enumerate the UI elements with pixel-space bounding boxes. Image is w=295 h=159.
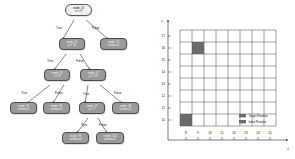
x-tick-label: 15 [268,131,272,135]
x-tick-labels: 8 9 10 11 12 13 14 15 [185,131,272,135]
x-tick-label: 12 [232,131,236,135]
y-tick-marks [168,36,171,120]
edge-label-n7-n10: False [99,123,107,127]
tree-node-n8[interactable]: node #8 action=2 [112,102,139,114]
tree-node-detail: x < 8 [54,75,61,78]
edge-label-n3-n5: True [21,91,27,95]
y-tick-label: 11 [162,106,166,110]
tree-node-n6[interactable]: node #6 action=2 [43,102,70,114]
tree-node-n10[interactable]: node #10 action=2 [96,132,124,144]
x-tick-marks [186,137,270,140]
y-tick-label: 13 [161,82,165,86]
tree-node-detail: action=1 [18,108,30,111]
x-tick-label: 9 [197,131,199,135]
edge-label-n0-n1: True [56,26,62,30]
x-tick-label: 10 [208,131,212,135]
tree-node-n5[interactable]: node #5 action=1 [10,102,37,114]
decision-tree-panel: node #0 x < 9 node #1 y < 11 node #2 act… [0,0,155,159]
tree-node-detail: action=2 [108,44,120,47]
legend-label-initial: Initial Position [249,120,267,124]
tree-node-n3[interactable]: node #3 x < 8 [44,69,70,81]
legend-swatch-initial [239,120,246,123]
y-tick-label: 15 [161,58,165,62]
edge-label-n4-n7: True [83,92,89,96]
tree-node-detail: action=2 [120,108,132,111]
edge-label-n0-n2: False [92,26,100,30]
y-axis-label: y [160,19,163,23]
grid-chart-svg: 8 9 10 11 12 13 14 15 10 11 12 13 14 15 … [155,0,295,159]
tree-node-detail: action=2 [51,108,63,111]
tree-node-detail: y < 13 [89,75,97,78]
edge-label-n1-n4: False [76,59,84,63]
tree-node-n4[interactable]: node #4 y < 13 [80,69,106,81]
y-tick-label: 12 [161,94,165,98]
y-tick-labels: 10 11 12 13 14 15 16 17 [161,34,165,122]
grid-chart-panel: 8 9 10 11 12 13 14 15 10 11 12 13 14 15 … [155,0,295,159]
tree-node-n9[interactable]: node #9 action=0 [62,132,89,144]
y-tick-label: 17 [161,34,165,38]
y-tick-label: 16 [161,46,165,50]
y-tick-label: 14 [161,70,165,74]
cell-initial-position [180,114,192,126]
edge-label-n4-n8: False [114,91,122,95]
tree-node-detail: x < 9 [75,10,82,13]
x-tick-label: 14 [256,131,260,135]
edge-label-n1-n3: True [47,59,53,63]
x-tick-label: 13 [244,131,248,135]
tree-node-n1[interactable]: node #1 y < 11 [59,38,85,50]
legend-swatch-target [239,114,246,117]
x-tick-label: 11 [220,131,224,135]
tree-node-n0[interactable]: node #0 x < 9 [65,4,92,16]
figure-root: node #0 x < 9 node #1 y < 11 node #2 act… [0,0,295,159]
tree-node-detail: action=2 [104,138,116,141]
y-tick-label: 10 [161,118,165,122]
edge-label-n3-n6: False [55,91,63,95]
x-axis-label: x [286,147,289,151]
cell-target-position [192,42,204,54]
x-tick-label: 8 [185,131,187,135]
edge-label-n7-n9: True [81,123,87,127]
tree-node-n2[interactable]: node #2 action=2 [100,38,127,50]
tree-node-detail: y < 11 [68,44,76,47]
tree-node-detail: y < 7 [89,108,96,111]
tree-node-n7[interactable]: node #7 y < 7 [79,102,105,114]
tree-node-detail: action=0 [70,138,82,141]
legend-label-target: Target Position [249,114,269,118]
